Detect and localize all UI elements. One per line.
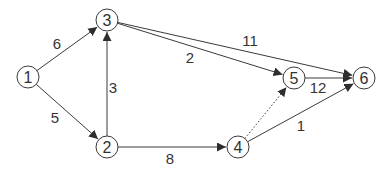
graph-svg: 6532118121 123456 (0, 0, 391, 176)
node-5: 5 (283, 67, 305, 89)
edge-weight-5-6: 12 (310, 79, 327, 96)
edge-weight-2-4: 8 (166, 150, 174, 167)
edge-weight-4-6: 1 (297, 117, 305, 134)
edges-layer: 6532118121 (36, 22, 353, 166)
edge-weight-3-5: 2 (186, 49, 194, 66)
node-label: 3 (103, 12, 112, 29)
edge-1-to-2 (36, 84, 98, 139)
node-label: 1 (24, 69, 33, 86)
node-3: 3 (96, 9, 118, 31)
edge-weight-1-3: 6 (53, 35, 61, 52)
edge-1-to-3 (37, 27, 97, 71)
edge-weight-2-3: 3 (109, 79, 117, 96)
node-label: 6 (360, 70, 369, 87)
edge-3-to-6 (118, 22, 353, 75)
node-6: 6 (353, 67, 375, 89)
edge-weight-1-2: 5 (51, 109, 59, 126)
graph-canvas: 6532118121 123456 (0, 0, 391, 176)
edge-weight-3-6: 11 (242, 32, 258, 49)
node-label: 5 (290, 70, 299, 87)
node-2: 2 (96, 136, 118, 158)
node-1: 1 (17, 66, 39, 88)
edge-4-to-5 (245, 87, 287, 138)
node-label: 2 (103, 139, 112, 156)
node-4: 4 (227, 136, 249, 158)
node-label: 4 (234, 139, 243, 156)
